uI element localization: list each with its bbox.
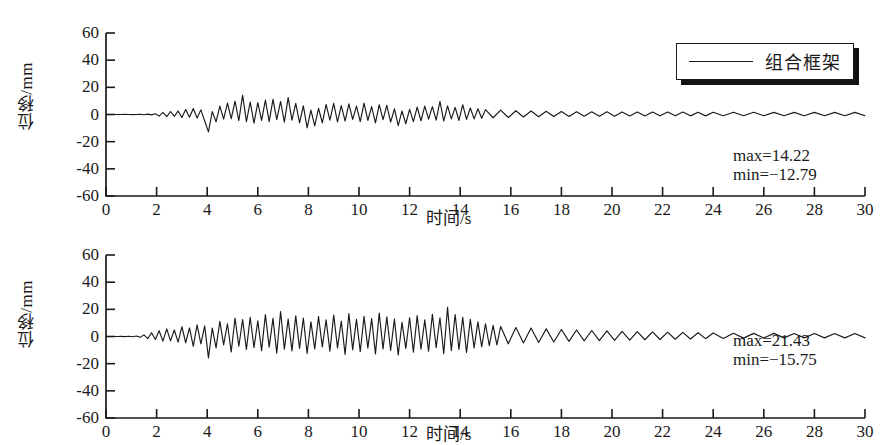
x-tick-label: 30: [857, 422, 874, 442]
x-tick-label: 8: [304, 200, 313, 220]
x-tick-label: 28: [806, 200, 823, 220]
x-tick-label: 14: [452, 200, 469, 220]
annotation-max-top: max=14.22: [733, 146, 817, 165]
x-tick-label: 26: [755, 200, 772, 220]
x-tick-label: 2: [152, 422, 161, 442]
x-tick-label: 22: [654, 200, 671, 220]
y-tick-label: -40: [76, 159, 99, 179]
annotation-min-top: min=−12.79: [733, 165, 817, 184]
y-tick-label: -40: [76, 381, 99, 401]
y-tick-label: -20: [76, 354, 99, 374]
x-tick-label: 28: [806, 422, 823, 442]
x-tick-label: 10: [351, 200, 368, 220]
y-tick-label: 40: [82, 50, 99, 70]
y-tick-label: 60: [82, 245, 99, 265]
x-tick-label: 22: [654, 422, 671, 442]
x-tick-label: 4: [203, 200, 212, 220]
y-tick-label: 40: [82, 272, 99, 292]
annotation-top: max=14.22 min=−12.79: [733, 146, 817, 185]
x-tick-label: 24: [705, 200, 722, 220]
chart-panel-composite-frame: 位移/mm 时间/s 组合框架 max=14.22 min=−12.79: [0, 0, 896, 222]
x-tick-label: 6: [254, 422, 263, 442]
x-tick-label: 20: [604, 422, 621, 442]
x-tick-label: 0: [102, 422, 111, 442]
y-axis-label-top: 位移/mm: [14, 62, 39, 130]
y-tick-label: 0: [91, 105, 100, 125]
y-tick-label: 60: [82, 23, 99, 43]
seismic-displacement-figure: 位移/mm 时间/s 组合框架 max=14.22 min=−12.79 钢框架…: [0, 0, 896, 445]
annotation-max-bottom: max=21.43: [733, 331, 817, 350]
y-tick-label: 20: [82, 299, 99, 319]
x-tick-label: 16: [502, 200, 519, 220]
legend-top: 组合框架: [676, 43, 854, 80]
x-tick-label: 30: [857, 200, 874, 220]
y-tick-label: -60: [76, 408, 99, 428]
x-tick-label: 18: [553, 200, 570, 220]
x-tick-label: 12: [401, 422, 418, 442]
y-tick-label: -60: [76, 186, 99, 206]
x-tick-label: 8: [304, 422, 313, 442]
x-tick-label: 14: [452, 422, 469, 442]
annotation-bottom: max=21.43 min=−15.75: [733, 331, 817, 370]
x-tick-label: 18: [553, 422, 570, 442]
x-tick-label: 4: [203, 422, 212, 442]
x-tick-label: 6: [254, 200, 263, 220]
annotation-min-bottom: min=−15.75: [733, 350, 817, 369]
legend-line-swatch-icon: [689, 61, 753, 62]
y-tick-label: 20: [82, 77, 99, 97]
x-tick-label: 12: [401, 200, 418, 220]
x-tick-label: 16: [502, 422, 519, 442]
plot-area-top: [0, 0, 896, 222]
x-tick-label: 10: [351, 422, 368, 442]
x-tick-label: 24: [705, 422, 722, 442]
y-axis-label-bottom: 位移/mm: [14, 280, 39, 348]
legend-label-top: 组合框架: [765, 48, 841, 74]
x-tick-label: 26: [755, 422, 772, 442]
x-tick-label: 2: [152, 200, 161, 220]
y-tick-label: -20: [76, 132, 99, 152]
x-tick-label: 20: [604, 200, 621, 220]
x-tick-label: 0: [102, 200, 111, 220]
y-tick-label: 0: [91, 327, 100, 347]
